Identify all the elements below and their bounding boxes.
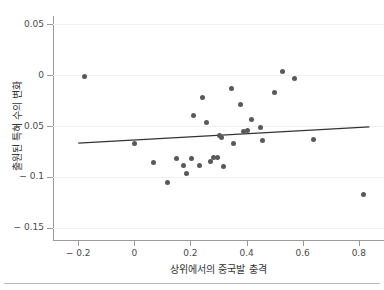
- regression-line: [53, 16, 384, 240]
- y-tick-mark-1: [47, 75, 53, 76]
- y-tick-label-1: 0: [38, 71, 44, 80]
- x-tick-mark-2: [190, 241, 191, 246]
- x-tick-mark-5: [359, 241, 360, 246]
- x-tick-label-4: 0.6: [283, 249, 323, 258]
- data-point: [229, 86, 234, 91]
- data-point: [311, 137, 316, 142]
- x-tick-label-2: 0.2: [170, 249, 210, 258]
- data-point: [280, 69, 285, 74]
- y-axis-label: 출원된 특허 수의 변화: [12, 56, 24, 196]
- y-tick-mark-3: [47, 177, 53, 178]
- clipped-caption-text: [14, 0, 214, 6]
- x-tick-label-3: 0.4: [227, 249, 267, 258]
- x-tick-mark-3: [247, 241, 248, 246]
- data-point: [272, 90, 277, 95]
- data-point: [231, 141, 236, 146]
- y-tick-label-4: − 0.15: [14, 223, 44, 232]
- y-tick-label-0: 0.05: [24, 20, 44, 29]
- y-tick-mark-0: [47, 24, 53, 25]
- x-tick-label-1: 0: [114, 249, 154, 258]
- data-point: [238, 102, 243, 107]
- data-point: [197, 163, 202, 168]
- x-tick-mark-4: [303, 241, 304, 246]
- data-point: [165, 180, 170, 185]
- x-tick-mark-0: [78, 241, 79, 246]
- data-point: [82, 74, 87, 79]
- data-point: [191, 113, 196, 118]
- data-point: [361, 192, 366, 197]
- data-point: [174, 156, 179, 161]
- y-tick-mark-4: [47, 228, 53, 229]
- x-tick-label-5: 0.8: [339, 249, 379, 258]
- footer-divider: [4, 283, 380, 284]
- y-tick-mark-2: [47, 126, 53, 127]
- plot-area: [53, 16, 384, 240]
- x-axis-label: 상위에서의 중국발 충격: [53, 264, 384, 276]
- data-point: [258, 125, 263, 130]
- data-point: [245, 128, 250, 133]
- data-point: [200, 95, 205, 100]
- data-point: [221, 164, 226, 169]
- x-tick-mark-1: [134, 241, 135, 246]
- data-point: [249, 117, 254, 122]
- data-point: [260, 138, 265, 143]
- data-point: [184, 171, 189, 176]
- x-axis-spine: [53, 240, 384, 241]
- x-tick-label-0: − 0.2: [58, 249, 98, 258]
- scatter-plot-figure: 0.050− 0.05− 0.1− 0.15 − 0.200.20.40.60.…: [0, 0, 384, 290]
